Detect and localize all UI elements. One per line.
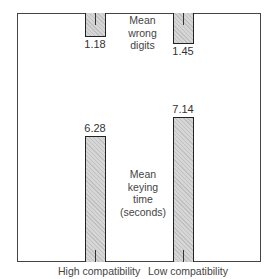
label-line: time [115, 193, 171, 206]
label-mean-wrong-digits: Mean wrong digits [120, 14, 165, 52]
bar-low-keying-time [173, 117, 194, 262]
label-mean-keying-time: Mean keying time (seconds) [115, 168, 171, 218]
label-line: (seconds) [115, 206, 171, 219]
bar-high-wrong-digits-tick [95, 13, 96, 25]
bar-low-wrong-digits-tick [183, 13, 184, 25]
category-high-compatibility: High compatibility [58, 265, 140, 277]
label-line: Mean [115, 168, 171, 181]
bar-low-keying-time-tick [183, 250, 184, 262]
value-high-keying-time: 6.28 [75, 122, 115, 134]
label-line: Mean [120, 14, 165, 27]
label-line: keying [115, 181, 171, 194]
bar-high-keying-time [85, 136, 106, 262]
category-low-compatibility: Low compatibility [148, 265, 228, 277]
bar-high-keying-time-tick [95, 250, 96, 262]
value-low-keying-time: 7.14 [163, 103, 203, 115]
value-low-wrong-digits: 1.45 [163, 45, 203, 57]
label-line: wrong [120, 27, 165, 40]
value-high-wrong-digits: 1.18 [75, 38, 115, 50]
label-line: digits [120, 39, 165, 52]
